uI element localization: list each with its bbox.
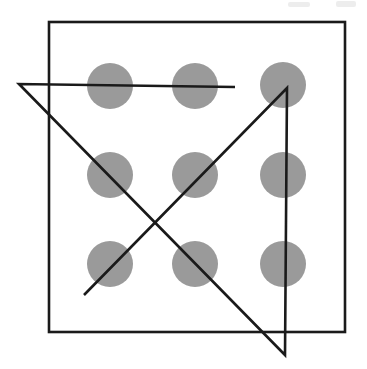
dot-row3-col1 xyxy=(87,241,133,287)
nine-dot-puzzle-figure xyxy=(0,0,367,369)
figure-canvas xyxy=(0,0,367,369)
scan-smudge-right xyxy=(336,1,356,7)
scan-smudge-left xyxy=(288,2,310,7)
four-line-solution-path xyxy=(19,84,287,355)
dot-grid xyxy=(87,62,306,287)
dot-row3-col3 xyxy=(260,241,306,287)
dot-row2-col3 xyxy=(260,152,306,198)
dot-row1-col3 xyxy=(260,62,306,108)
dot-row2-col2 xyxy=(172,152,218,198)
